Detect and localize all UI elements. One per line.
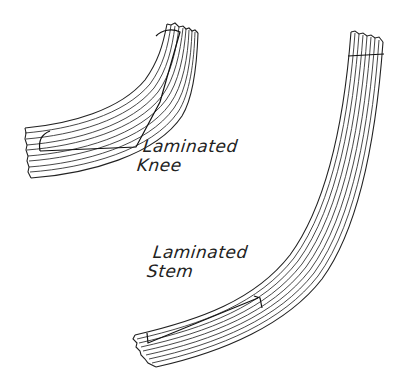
stem-label-line2: Stem <box>146 262 247 281</box>
knee-label-line2: Knee <box>136 156 237 175</box>
drawing-canvas <box>0 0 406 384</box>
stem-scarf-line <box>147 296 262 343</box>
laminated-stem <box>133 31 384 367</box>
knee-label-line1: Laminated <box>142 137 239 156</box>
stem-label: Laminated Stem <box>150 243 249 281</box>
knee-left-end <box>25 128 31 178</box>
stem-laminations <box>135 32 383 367</box>
stem-label-line1: Laminated <box>152 243 249 262</box>
knee-label: Laminated Knee <box>140 137 239 175</box>
